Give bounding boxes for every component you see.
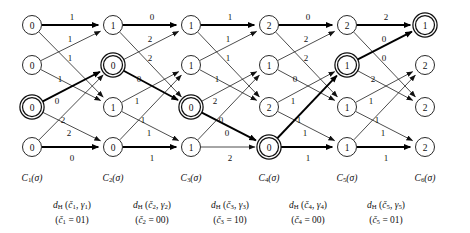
trellis-node[interactable]: 1	[338, 138, 357, 157]
edge-metric-label: 0	[382, 34, 387, 44]
edge-metric-label: 2	[304, 34, 309, 44]
trellis-node[interactable]: 0	[104, 138, 123, 157]
edge-metric-label: 0	[306, 12, 311, 22]
node-metric-value: 0	[30, 103, 35, 113]
equals-sign: =	[302, 215, 312, 225]
trellis-node[interactable]: 0	[23, 138, 42, 157]
node-metric-value: 1	[111, 103, 116, 113]
trellis-node[interactable]: 0	[23, 56, 42, 75]
codeword-value: 10	[234, 215, 244, 225]
trellis-node[interactable]: 0	[20, 95, 44, 119]
edge-metric-label: 1	[297, 115, 302, 125]
trellis-node[interactable]: 1	[335, 53, 359, 77]
trellis-node[interactable]: 1	[182, 138, 201, 157]
node-metric-value: 0	[267, 143, 272, 153]
trellis-node[interactable]: 0	[257, 135, 281, 159]
edge-metric-label: 0	[70, 153, 75, 163]
trellis-node[interactable]: 2	[260, 16, 279, 35]
node-metric-value: 2	[267, 103, 272, 113]
edge-metric-label: 1	[135, 96, 140, 106]
branch-metric-label: dH (č5, γ5)(č5 = 01)	[367, 198, 405, 227]
paren-close: )	[168, 200, 171, 210]
column-label: C1(σ)	[22, 173, 43, 183]
node-metric-value: 1	[345, 61, 350, 71]
node-metric-value: 1	[423, 21, 428, 31]
node-metric-value: 0	[30, 61, 35, 71]
codeword-value: 00	[156, 215, 166, 225]
codeword-value-expression: (č1 = 01)	[53, 213, 91, 228]
edge-metric-label: 0	[225, 128, 230, 138]
codeword-value-expression: (č2 = 00)	[133, 213, 171, 228]
trellis-node[interactable]: 2	[416, 56, 435, 75]
node-metric-value: 0	[189, 103, 194, 113]
edge-metric-label: 2	[304, 53, 309, 63]
edge-metric-label: 1	[68, 34, 73, 44]
column-label: C3(σ)	[181, 173, 202, 183]
branch-metric-expression: dH (č2, γ2)	[133, 198, 171, 213]
node-metric-value: 2	[423, 143, 428, 153]
edge-metric-label: 0	[219, 115, 224, 125]
trellis-node[interactable]: 1	[338, 98, 357, 117]
edge-metric-label: 0	[55, 96, 60, 106]
paren-close: )	[322, 215, 325, 225]
trellis-node[interactable]: 2	[338, 16, 357, 35]
node-metric-value: 1	[345, 103, 350, 113]
trellis-node[interactable]: 1	[104, 16, 123, 35]
paren-close: )	[324, 200, 327, 210]
edge-metric-label: 1	[150, 153, 155, 163]
branch-metric-label: dH (č4, γ4)(č4 = 00)	[289, 198, 327, 227]
edge-metric-label: 1	[381, 128, 386, 138]
paren-close: )	[244, 215, 247, 225]
edge-metric-label: 1	[215, 74, 220, 84]
node-metric-value: 0	[30, 21, 35, 31]
paren-close: )	[402, 200, 405, 210]
node-metric-value: 2	[423, 61, 428, 71]
edge-metric-label: 2	[148, 34, 153, 44]
trellis-node[interactable]: 1	[413, 13, 437, 37]
column-label: C2(σ)	[103, 173, 124, 183]
edge-metric-label: 2	[384, 12, 389, 22]
trellis-node[interactable]: 1	[182, 56, 201, 75]
node-metric-value: 1	[189, 143, 194, 153]
trellis-node[interactable]: 0	[179, 95, 203, 119]
edge-metric-label: 1	[226, 53, 231, 63]
column-label-arg: (σ)	[268, 173, 279, 183]
trellis-node[interactable]: 2	[416, 138, 435, 157]
codeword-value: 01	[390, 215, 400, 225]
edge-label-layer: 1111022002201111111120020220111120021111	[55, 12, 389, 163]
node-metric-value: 1	[267, 61, 272, 71]
edge-metric-label: 1	[147, 128, 152, 138]
trellis-node[interactable]: 2	[416, 98, 435, 117]
edge-metric-label: 0	[382, 53, 387, 63]
edge-metric-label: 1	[384, 153, 389, 163]
column-label: C6(σ)	[415, 173, 436, 183]
node-metric-value: 1	[111, 21, 116, 31]
paren-close: )	[400, 215, 403, 225]
paren-close: )	[88, 200, 91, 210]
node-metric-value: 0	[30, 143, 35, 153]
trellis-node[interactable]: 0	[23, 16, 42, 35]
branch-metric-label: dH (č3, γ3)(č3 = 10)	[211, 198, 249, 227]
column-label: C4(σ)	[259, 173, 280, 183]
node-metric-value: 1	[345, 143, 350, 153]
branch-metric-expression: dH (č1, γ1)	[53, 198, 91, 213]
trellis-node[interactable]: 0	[101, 53, 125, 77]
column-label-arg: (σ)	[31, 173, 42, 183]
node-metric-value: 1	[189, 61, 194, 71]
codeword-value-expression: (č5 = 01)	[367, 213, 405, 228]
branch-metric-expression: dH (č4, γ4)	[289, 198, 327, 213]
trellis-node[interactable]: 1	[104, 98, 123, 117]
trellis-node[interactable]: 1	[260, 56, 279, 75]
node-metric-value: 0	[111, 143, 116, 153]
column-label-arg: (σ)	[112, 173, 123, 183]
trellis-node[interactable]: 1	[182, 16, 201, 35]
edge-metric-label: 1	[306, 153, 311, 163]
column-label-arg: (σ)	[190, 173, 201, 183]
equals-sign: =	[224, 215, 234, 225]
trellis-diagram: 000010101101212021111222 111102200220111…	[0, 0, 470, 233]
edge-metric-label: 1	[68, 53, 73, 63]
trellis-node[interactable]: 2	[260, 98, 279, 117]
paren-close: )	[166, 215, 169, 225]
paren-close: )	[86, 215, 89, 225]
edge-metric-label: 2	[213, 96, 218, 106]
